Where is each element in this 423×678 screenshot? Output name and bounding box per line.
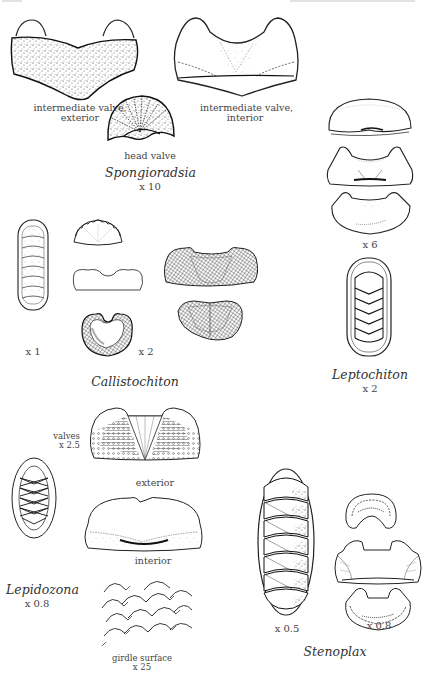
genus-leptochiton: Leptochiton [330, 368, 410, 381]
lepidozona-girdle-surface [100, 572, 194, 646]
caption-exterior: exterior [130, 478, 180, 488]
genus-spongioradsia: Spongioradsia [105, 166, 195, 179]
callistochiton-valve-exterior-small [174, 297, 246, 343]
spongioradsia-intermediate-valve-interior [170, 14, 302, 98]
callistochiton-whole-animal [16, 218, 50, 312]
stenoplax-whole-animal [256, 467, 316, 617]
scale-stenoplax-valves: x 0.8 [362, 620, 396, 631]
genus-stenoplax: Stenoplax [300, 645, 370, 658]
caption-girdle-surface: girdle surface x 25 [112, 654, 172, 672]
cropped-page-number-trace [2, 0, 22, 2]
scale-leptochiton-valves: x 6 [355, 239, 385, 250]
callistochiton-tail-valve [78, 310, 136, 358]
leptochiton-head-valve [325, 96, 415, 138]
caption-line: x 25 [112, 663, 172, 672]
lepidozona-valve-exterior [86, 406, 204, 464]
leptochiton-tail-valve [328, 190, 414, 236]
scale-callistochiton-valves: x 2 [135, 346, 157, 357]
stenoplax-head-valve [342, 490, 400, 534]
spongioradsia-head-valve [104, 92, 176, 152]
callistochiton-intermediate-valve [70, 268, 146, 292]
scale-spongioradsia: x 10 [130, 181, 170, 192]
lepidozona-valve-interior [80, 494, 206, 552]
scale-callistochiton-whole: x 1 [22, 346, 44, 357]
leptochiton-whole-animal [345, 256, 393, 358]
caption-valves-scale: valves x 2.5 [40, 432, 80, 450]
caption-line: interior [200, 113, 290, 123]
caption-line: x 2.5 [40, 441, 80, 450]
caption-head-valve: head valve [120, 151, 180, 161]
scale-lepidozona-whole: x 0.8 [20, 598, 54, 609]
leptochiton-intermediate-valve [324, 144, 416, 190]
callistochiton-valve-exterior-large [162, 244, 260, 288]
caption-interior: interior [128, 556, 178, 566]
callistochiton-head-valve [72, 218, 124, 248]
cropped-running-header-trace [290, 0, 415, 2]
genus-callistochiton: Callistochiton [90, 375, 180, 388]
scale-stenoplax-whole: x 0.5 [270, 623, 304, 634]
spongioradsia-intermediate-valve-exterior [8, 14, 140, 102]
stenoplax-intermediate-valve [332, 536, 423, 586]
genus-lepidozona: Lepidozona [6, 583, 68, 596]
caption-intermediate-valve-interior: intermediate valve, interior [200, 103, 290, 123]
scale-leptochiton-whole: x 2 [355, 383, 385, 394]
lepidozona-whole-animal [10, 456, 58, 540]
